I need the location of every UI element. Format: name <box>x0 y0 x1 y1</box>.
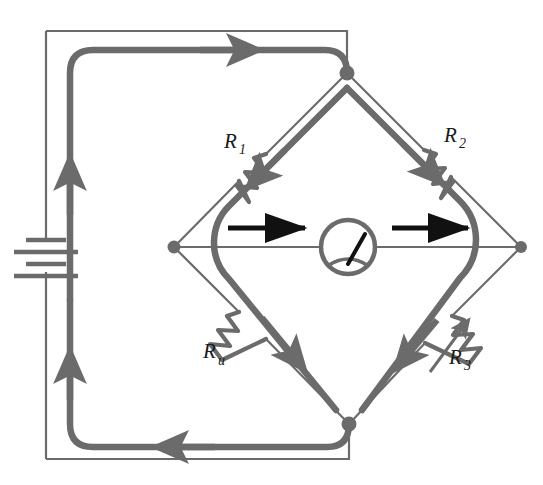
current-path-supply-arrowheads <box>70 50 252 447</box>
arm-arrow-r3 <box>400 320 437 364</box>
label-R1-sub: 1 <box>239 142 246 157</box>
supply-loop-thin-wires <box>46 31 349 459</box>
node-top <box>340 66 355 81</box>
circuit-diagram-canvas: R 1 R 2 R u R 3 <box>0 0 543 485</box>
arm-wire-r1-lower <box>174 181 239 247</box>
label-Ru-sub: u <box>218 353 225 368</box>
current-path-supply-upper <box>70 50 347 300</box>
arm-wire-r3-upper <box>452 247 521 316</box>
label-R3-sub: 3 <box>463 358 471 373</box>
label-R2-sub: 2 <box>459 136 466 151</box>
galvanometer <box>321 220 375 274</box>
arm-wire-r1-upper <box>266 73 347 154</box>
node-bottom <box>342 417 357 432</box>
arm-wire-r2-lower <box>451 177 521 247</box>
circuit-figure: R 1 R 2 R u R 3 <box>0 0 543 485</box>
arm-wire-r2-upper <box>347 73 424 150</box>
label-R3-main: R <box>448 345 462 369</box>
node-left <box>168 241 181 254</box>
node-right <box>515 241 527 253</box>
label-R1-main: R <box>223 129 237 153</box>
label-R2-main: R <box>443 123 457 147</box>
current-path-supply <box>70 50 349 447</box>
label-Ru-main: R <box>202 339 216 363</box>
wire-battery-bottom <box>46 424 349 459</box>
